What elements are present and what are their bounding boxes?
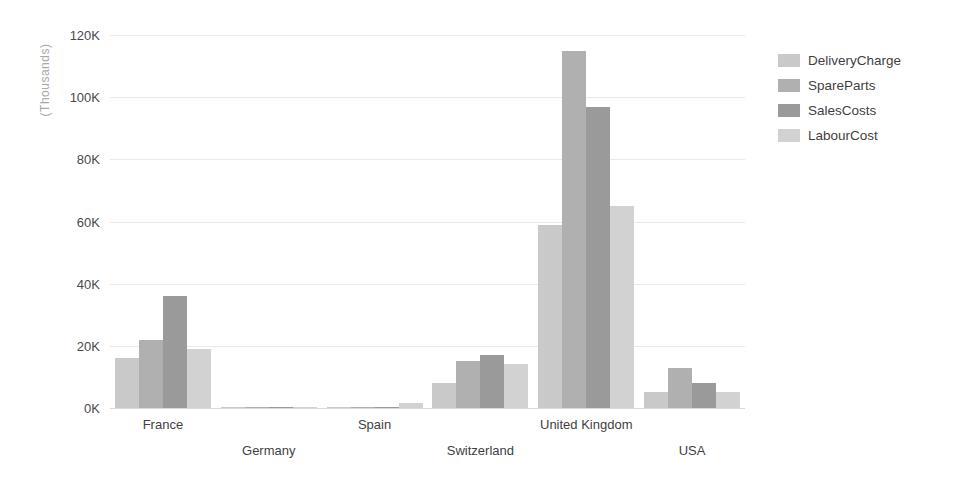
legend: DeliveryChargeSparePartsSalesCostsLabour… (778, 48, 901, 148)
bars-row (428, 35, 534, 408)
bar[interactable] (456, 361, 480, 408)
legend-item[interactable]: DeliveryCharge (778, 48, 901, 73)
legend-swatch-icon (778, 79, 800, 92)
x-tick-label: Germany (242, 443, 295, 458)
bar[interactable] (610, 206, 634, 408)
x-tick-label: USA (679, 443, 706, 458)
y-tick-label: 40K (77, 276, 100, 291)
bar[interactable] (163, 296, 187, 408)
bar[interactable] (504, 364, 528, 408)
plot-area: 0K20K40K60K80K100K120K (110, 35, 745, 408)
bar-group (110, 35, 216, 408)
bars-row (216, 35, 322, 408)
legend-item[interactable]: LabourCost (778, 123, 901, 148)
y-tick-label: 20K (77, 338, 100, 353)
x-tick-label: United Kingdom (540, 417, 633, 432)
bar-group (322, 35, 428, 408)
bar[interactable] (562, 51, 586, 408)
bar[interactable] (586, 107, 610, 409)
legend-label: SpareParts (808, 78, 876, 93)
bars-row (110, 35, 216, 408)
bar-groups (110, 35, 745, 408)
bars-row (533, 35, 639, 408)
bars-row (639, 35, 745, 408)
x-tick-label: Switzerland (447, 443, 514, 458)
bar[interactable] (538, 225, 562, 408)
legend-label: SalesCosts (808, 103, 876, 118)
bar[interactable] (668, 368, 692, 408)
bar-chart: (Thousands) 0K20K40K60K80K100K120K Franc… (0, 0, 967, 491)
bar-group (639, 35, 745, 408)
bar-group (428, 35, 534, 408)
bar[interactable] (692, 383, 716, 408)
y-tick-label: 120K (70, 28, 100, 43)
bars-row (322, 35, 428, 408)
x-tick-label: Spain (358, 417, 391, 432)
legend-swatch-icon (778, 104, 800, 117)
y-tick-label: 60K (77, 214, 100, 229)
bar[interactable] (644, 392, 668, 408)
y-tick-label: 100K (70, 90, 100, 105)
legend-label: DeliveryCharge (808, 53, 901, 68)
legend-item[interactable]: SpareParts (778, 73, 901, 98)
bar[interactable] (115, 358, 139, 408)
bar[interactable] (139, 340, 163, 408)
y-axis-title: (Thousands) (38, 10, 52, 150)
x-tick-label: France (143, 417, 183, 432)
legend-label: LabourCost (808, 128, 878, 143)
x-axis-labels: FranceGermanySpainSwitzerlandUnited King… (110, 408, 745, 478)
y-tick-label: 0K (84, 401, 100, 416)
legend-item[interactable]: SalesCosts (778, 98, 901, 123)
bar-group (216, 35, 322, 408)
y-tick-label: 80K (77, 152, 100, 167)
bar-group (533, 35, 639, 408)
bar[interactable] (480, 355, 504, 408)
bar[interactable] (432, 383, 456, 408)
legend-swatch-icon (778, 54, 800, 67)
bar[interactable] (187, 349, 211, 408)
bar[interactable] (716, 392, 740, 408)
legend-swatch-icon (778, 129, 800, 142)
